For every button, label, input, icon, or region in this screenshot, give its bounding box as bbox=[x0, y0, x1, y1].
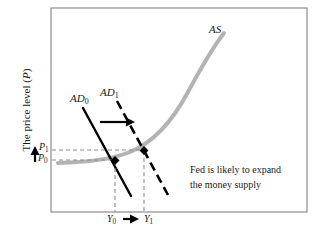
chart-canvas bbox=[0, 0, 321, 241]
x-tick-y0: Y0 bbox=[107, 213, 116, 226]
p0-subscript: 0 bbox=[44, 157, 48, 165]
annotation-line-2: the money supply bbox=[190, 178, 281, 193]
shift-arrow-icon bbox=[100, 118, 135, 127]
ad1-base: AD bbox=[100, 86, 115, 98]
ad0-curve-label: AD0 bbox=[70, 92, 89, 106]
output-right-arrow-icon bbox=[123, 215, 139, 224]
y-axis-title: The price level (P) bbox=[20, 40, 32, 180]
ad1-subscript: 1 bbox=[115, 91, 119, 100]
ad-as-diagram: The price level (P) AS AD0 AD1 P1 P0 Y0 … bbox=[0, 0, 321, 241]
policy-annotation: Fed is likely to expand the money supply bbox=[190, 163, 281, 192]
ad0-subscript: 0 bbox=[85, 97, 89, 106]
x-tick-y1: Y1 bbox=[144, 213, 153, 226]
as-curve-label: AS bbox=[209, 23, 221, 36]
y1-subscript: 1 bbox=[150, 218, 154, 226]
y0-subscript: 0 bbox=[113, 218, 117, 226]
y-axis-title-text: The price level (P) bbox=[20, 69, 32, 152]
ad0-base: AD bbox=[70, 92, 85, 104]
annotation-line-1: Fed is likely to expand bbox=[190, 163, 281, 178]
y-tick-p0: P0 bbox=[38, 152, 48, 165]
ad1-curve-label: AD1 bbox=[100, 86, 119, 100]
